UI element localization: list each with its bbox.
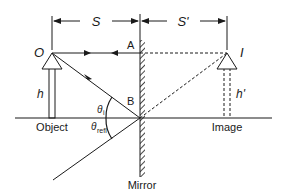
object-arrow	[42, 53, 62, 118]
point-b-label: B	[127, 95, 134, 107]
image-arrow	[217, 53, 237, 118]
image-height-label: h'	[236, 87, 246, 101]
object-height-label: h	[37, 87, 44, 101]
plane-mirror-reflection-diagram: S S' O I A B	[0, 0, 285, 195]
distance-s-label: S	[92, 14, 101, 29]
object-point-label: O	[34, 45, 44, 60]
angle-reflection-arc	[106, 118, 112, 139]
svg-text:i: i	[103, 109, 105, 116]
ray-incident	[52, 53, 140, 118]
point-a-label: A	[127, 39, 135, 51]
angle-incidence-label: θ i	[97, 104, 105, 116]
image-caption: Image	[212, 121, 243, 133]
image-point-label: I	[240, 45, 244, 60]
virtual-ray-diagonal	[140, 53, 227, 118]
mirror	[140, 14, 145, 177]
angle-incidence-arc	[106, 97, 112, 118]
angle-reflection-label: θ refl	[91, 121, 107, 134]
distance-s-prime-label: S'	[177, 14, 189, 29]
svg-text:refl: refl	[97, 127, 107, 134]
mirror-caption: Mirror	[128, 179, 157, 191]
object-caption: Object	[36, 121, 68, 133]
